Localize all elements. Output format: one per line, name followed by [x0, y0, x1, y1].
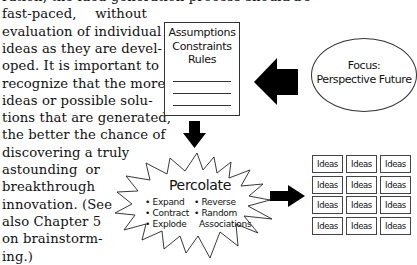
idea-cell: Ideas — [346, 176, 377, 194]
idea-cell: Ideas — [380, 155, 411, 173]
percolate-item-explode: • Explode — [145, 219, 186, 229]
idea-cell: Ideas — [346, 196, 377, 214]
arrow-right-icon — [270, 185, 305, 207]
idea-cell: Ideas — [380, 217, 411, 235]
idea-cell: Ideas — [380, 196, 411, 214]
idea-cell: Ideas — [312, 176, 343, 194]
box-label: Assumptions Constraints Rules — [165, 26, 239, 67]
idea-cell: Ideas — [346, 155, 377, 173]
idea-cell: Ideas — [312, 196, 343, 214]
arrow-left-icon — [254, 58, 298, 105]
ideas-grid: Ideas Ideas Ideas Ideas Ideas Ideas Idea… — [312, 155, 411, 235]
focus-title: Focus: — [312, 59, 416, 73]
percolate-item-associations: Associations — [199, 219, 251, 229]
idea-cell: Ideas — [380, 176, 411, 194]
box-label-assumptions: Assumptions — [165, 26, 239, 40]
blank-line — [173, 93, 231, 94]
blank-line — [173, 81, 231, 82]
box-label-rules: Rules — [165, 53, 239, 67]
focus-ellipse: Focus: Perspective Future — [311, 38, 417, 112]
idea-cell: Ideas — [312, 155, 343, 173]
assumptions-constraints-rules-box: Assumptions Constraints Rules — [164, 22, 240, 116]
blank-line — [173, 105, 231, 106]
idea-cell: Ideas — [312, 217, 343, 235]
percolate-item-random: • Random — [194, 208, 237, 218]
arrow-down-icon — [183, 121, 206, 148]
percolate-title: Percolate — [160, 177, 240, 193]
box-label-constraints: Constraints — [165, 40, 239, 54]
percolate-item-contract: • Contract — [145, 208, 189, 218]
percolate-item-expand: • Expand — [145, 197, 184, 207]
focus-label: Focus: Perspective Future — [312, 59, 416, 87]
focus-subtitle: Perspective Future — [312, 73, 416, 87]
percolate-item-reverse: • Reverse — [194, 197, 236, 207]
idea-cell: Ideas — [346, 217, 377, 235]
